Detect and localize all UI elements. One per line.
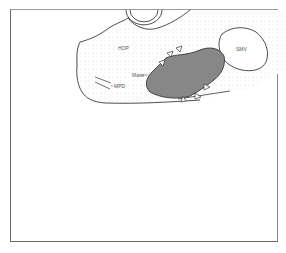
- vessel-ring-inner: [130, 10, 158, 22]
- mass-label: Mass: [132, 73, 144, 78]
- hop-label: HOP: [118, 46, 129, 51]
- smv-label: SMV: [236, 47, 247, 52]
- mpd-label: MPD: [114, 84, 125, 89]
- pancreas-diagram: [0, 0, 286, 253]
